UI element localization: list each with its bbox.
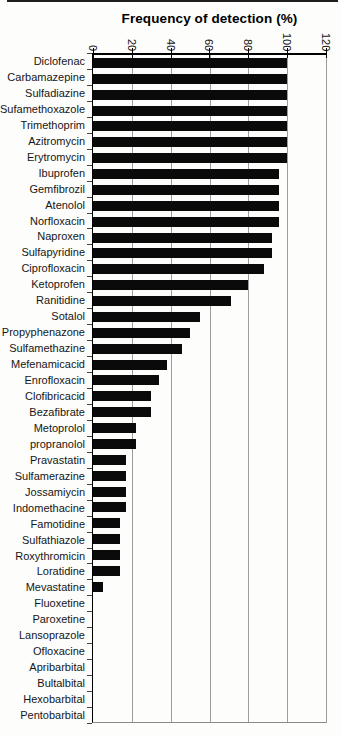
category-tick <box>87 484 92 485</box>
category-tick <box>87 468 92 469</box>
bar-row <box>93 690 326 706</box>
bar <box>93 439 136 449</box>
category-tick <box>87 308 92 309</box>
category-tick <box>87 244 92 245</box>
bar-row <box>93 531 326 547</box>
bar <box>93 90 287 100</box>
category-tick <box>87 133 92 134</box>
bar-row <box>93 452 326 468</box>
category-tick <box>87 324 92 325</box>
bar-row <box>93 150 326 166</box>
bar-row <box>93 341 326 357</box>
page-top-rule <box>7 0 338 2</box>
category-label: Bezafibrate <box>0 404 87 420</box>
bar-row <box>93 611 326 627</box>
category-label: Mevastatine <box>0 579 87 595</box>
bar <box>93 153 287 163</box>
category-tick <box>87 101 92 102</box>
bar <box>93 391 151 401</box>
category-label: Fluoxetine <box>0 595 87 611</box>
category-tick <box>87 404 92 405</box>
bar-row <box>93 674 326 690</box>
y-axis-category-labels: DiclofenacCarbamazepineSulfadiazineSufam… <box>0 53 87 723</box>
bar-row <box>93 373 326 389</box>
category-label: Lansoprazole <box>0 627 87 643</box>
bar <box>93 502 126 512</box>
bar <box>93 201 279 211</box>
category-tick <box>87 149 92 150</box>
bar-row <box>93 325 326 341</box>
bar-row <box>93 595 326 611</box>
category-label: Pentobarbital <box>0 707 87 723</box>
category-label: Clofibricacid <box>0 388 87 404</box>
category-label: Sulfamethazine <box>0 340 87 356</box>
bar <box>93 487 126 497</box>
category-label: Famotidine <box>0 516 87 532</box>
bar <box>93 423 136 433</box>
category-tick <box>87 85 92 86</box>
bar-row <box>93 357 326 373</box>
bar-row <box>93 103 326 119</box>
bar-row <box>93 198 326 214</box>
bar-row <box>93 309 326 325</box>
bar-row <box>93 388 326 404</box>
category-label: Azitromycin <box>0 133 87 149</box>
bar <box>93 121 287 131</box>
category-tick <box>87 53 92 54</box>
category-label: propranolol <box>0 436 87 452</box>
bar-row <box>93 420 326 436</box>
bar-row <box>93 404 326 420</box>
bar <box>93 550 120 560</box>
category-tick <box>87 420 92 421</box>
category-label: Mefenamicacid <box>0 356 87 372</box>
bar-row <box>93 293 326 309</box>
category-tick <box>87 372 92 373</box>
category-label: Sulfadiazine <box>0 85 87 101</box>
category-tick <box>87 452 92 453</box>
category-label: Jossamiycin <box>0 484 87 500</box>
bar <box>93 471 126 481</box>
bar-row <box>93 261 326 277</box>
category-tick <box>87 675 92 676</box>
bar-row <box>93 658 326 674</box>
category-label: Sulfathiazole <box>0 532 87 548</box>
category-tick <box>87 595 92 596</box>
category-tick <box>87 563 92 564</box>
category-label: Diclofenac <box>0 53 87 69</box>
bar <box>93 566 120 576</box>
bar <box>93 217 279 227</box>
bar-row <box>93 71 326 87</box>
category-label: Naproxen <box>0 228 87 244</box>
category-tick <box>87 213 92 214</box>
bar <box>93 74 287 84</box>
category-tick <box>87 516 92 517</box>
category-tick <box>87 197 92 198</box>
bar-row <box>93 515 326 531</box>
category-tick <box>87 165 92 166</box>
category-tick <box>87 691 92 692</box>
bar-row <box>93 166 326 182</box>
category-tick <box>87 388 92 389</box>
category-label: Erytromycin <box>0 149 87 165</box>
bar-series <box>93 55 326 722</box>
bar <box>93 280 248 290</box>
category-label: Apribarbital <box>0 659 87 675</box>
category-tick <box>87 643 92 644</box>
category-label: Hexobarbital <box>0 691 87 707</box>
bar <box>93 344 182 354</box>
bar <box>93 233 272 243</box>
category-label: Sotalol <box>0 308 87 324</box>
bar-row <box>93 500 326 516</box>
category-tick <box>87 627 92 628</box>
category-tick <box>87 611 92 612</box>
category-label: Roxythromicin <box>0 548 87 564</box>
bar <box>93 582 103 592</box>
category-label: Loratidine <box>0 564 87 580</box>
category-label: Ranitidine <box>0 292 87 308</box>
bar-row <box>93 627 326 643</box>
category-label: Gemfibrozil <box>0 181 87 197</box>
bar <box>93 375 159 385</box>
bar <box>93 312 200 322</box>
bar-row <box>93 119 326 135</box>
category-tick <box>87 548 92 549</box>
